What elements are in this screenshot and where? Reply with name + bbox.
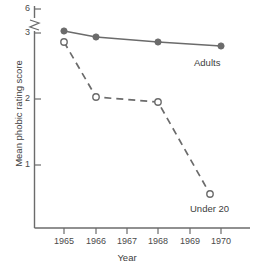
x-tick-label-1966: 1966 (81, 237, 111, 246)
data-point-adults-1968 (155, 39, 161, 45)
y-tick-label-3: 3 (16, 28, 30, 37)
data-point-adults-1965 (61, 28, 67, 34)
series-line-adults (64, 31, 221, 46)
phobic-rating-line-chart: 6 3 2 1 1965 1966 1967 1968 1969 1970 Me… (0, 0, 254, 267)
data-point-under20-1966 (93, 94, 99, 100)
series-line-under20 (64, 42, 210, 194)
x-tick-label-1967: 1967 (112, 237, 142, 246)
x-tick-label-1969: 1969 (175, 237, 205, 246)
series-label-adults: Adults (194, 57, 220, 68)
data-point-adults-1966 (93, 34, 99, 40)
data-point-under20-1970 (207, 191, 213, 197)
series-label-under20: Under 20 (190, 203, 229, 214)
x-tick-label-1968: 1968 (143, 237, 173, 246)
y-axis-title: Mean phobic rating score (13, 39, 24, 189)
data-point-under20-1968 (155, 99, 161, 105)
data-point-adults-1970 (218, 43, 224, 49)
data-point-under20-1965 (61, 39, 67, 45)
x-tick-label-1970: 1970 (206, 237, 236, 246)
y-axis-break-symbol (30, 20, 39, 30)
y-tick-label-6: 6 (16, 4, 30, 13)
x-tick-label-1965: 1965 (49, 237, 79, 246)
x-axis-title: Year (92, 252, 162, 263)
chart-canvas (0, 0, 254, 267)
